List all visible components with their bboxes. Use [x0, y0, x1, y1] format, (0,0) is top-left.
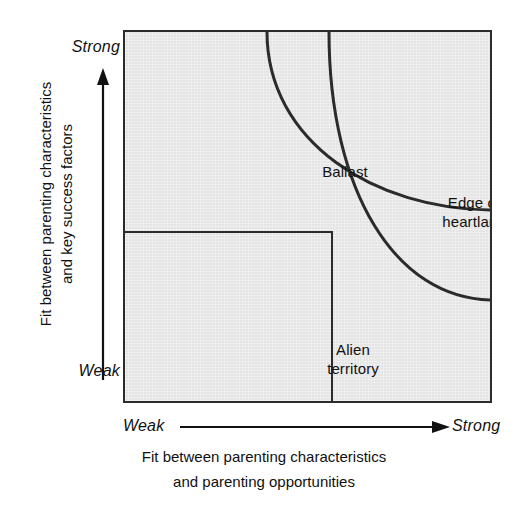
region-label-ballast: Ballast: [285, 162, 405, 181]
x-axis-low-label: Weak: [123, 417, 164, 435]
matrix-plot-area: Ballast Heartland Edge of heartland Alie…: [123, 30, 492, 403]
region-label-value-trap: Value trap: [483, 390, 492, 403]
inner-heartland-arc: [267, 32, 492, 210]
region-label-alien-territory: Alien territory: [293, 340, 413, 378]
region-label-heartland: Heartland: [490, 120, 492, 139]
arrow-right-icon: [180, 419, 450, 435]
x-axis-caption: Fit between parenting characteristics an…: [44, 444, 484, 494]
y-axis-caption: Fit between parenting characteristics an…: [35, 29, 79, 379]
x-axis-high-label: Strong: [452, 417, 500, 435]
parenting-fit-matrix-figure: Ballast Heartland Edge of heartland Alie…: [0, 0, 528, 509]
arrow-up-icon: [96, 68, 110, 380]
region-label-edge-of-heartland: Edge of heartland: [421, 193, 492, 231]
